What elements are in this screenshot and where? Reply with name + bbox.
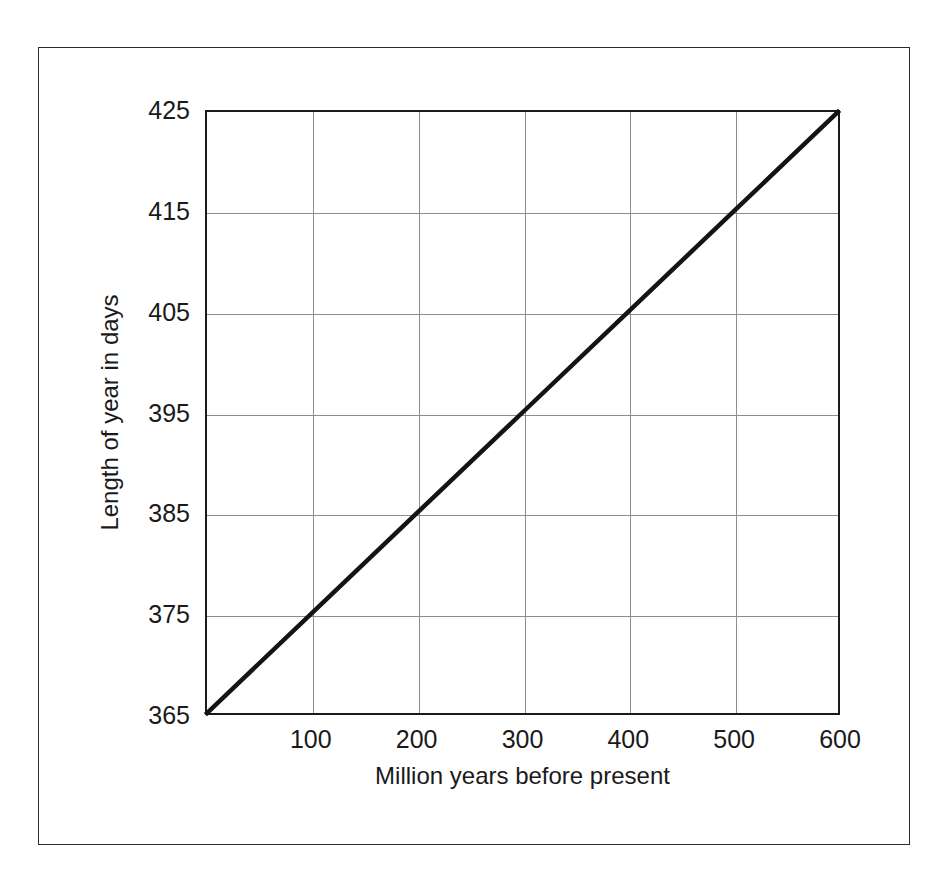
x-axis-tick-label: 300: [502, 725, 544, 754]
plot-area: [205, 110, 840, 715]
y-axis-tick-label: 375: [148, 600, 190, 629]
x-axis-title: Million years before present: [205, 762, 840, 790]
y-axis-tick-label: 365: [148, 701, 190, 730]
x-axis-tick-label: 500: [713, 725, 755, 754]
series-line-length-of-year: [207, 112, 838, 713]
x-axis-tick-label: 600: [819, 725, 861, 754]
y-axis-tick-labels: 365375385395405415425: [140, 110, 190, 715]
y-axis-title-container: Length of year in days: [96, 110, 126, 715]
x-axis-tick-label: 400: [607, 725, 649, 754]
y-axis-tick-label: 395: [148, 398, 190, 427]
x-axis-tick-label: 100: [290, 725, 332, 754]
x-axis-tick-labels: 100200300400500600: [205, 725, 840, 759]
y-axis-tick-label: 385: [148, 499, 190, 528]
figure-root: Length of year in days 36537538539540541…: [0, 0, 940, 883]
y-axis-title: Length of year in days: [96, 110, 124, 715]
data-line-layer: [207, 112, 838, 713]
x-axis-tick-label: 200: [396, 725, 438, 754]
y-axis-tick-label: 425: [148, 96, 190, 125]
y-axis-tick-label: 415: [148, 196, 190, 225]
y-axis-tick-label: 405: [148, 297, 190, 326]
